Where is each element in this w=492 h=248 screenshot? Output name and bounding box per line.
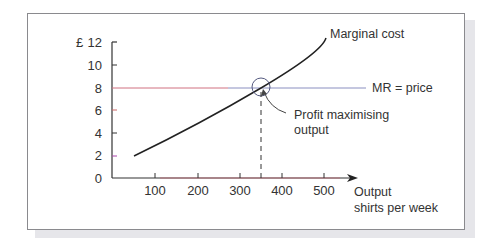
- y-tick-6: 6: [95, 103, 102, 118]
- x-tick-100: 100: [144, 183, 166, 198]
- x-ticks: [155, 173, 324, 178]
- y-tick-0: 0: [95, 171, 102, 186]
- x-tick-300: 300: [229, 183, 251, 198]
- x-axis-label-line2: shirts per week: [354, 201, 439, 215]
- profit-max-label-line2: output: [294, 123, 329, 137]
- y-ticks: [112, 65, 117, 156]
- marginal-cost-label: Marginal cost: [330, 27, 405, 41]
- y-tick-12: 12: [88, 35, 102, 50]
- mr-price-label: MR = price: [372, 81, 433, 95]
- y-axis-currency: £: [76, 35, 84, 50]
- chart-svg: 0 2 4 6 8 10 12 £ 100 200 300 400 500 Ou…: [0, 0, 492, 248]
- marginal-cost-curve: [134, 38, 326, 156]
- y-tick-10: 10: [88, 58, 102, 73]
- y-tick-2: 2: [95, 148, 102, 163]
- y-tick-4: 4: [95, 126, 102, 141]
- x-tick-400: 400: [271, 183, 293, 198]
- x-tick-200: 200: [187, 183, 209, 198]
- x-axis-label-line1: Output: [354, 185, 392, 199]
- x-tick-500: 500: [313, 183, 335, 198]
- profit-max-label-line1: Profit maximising: [294, 108, 389, 122]
- annotation-pointer: [264, 92, 286, 113]
- y-tick-8: 8: [95, 81, 102, 96]
